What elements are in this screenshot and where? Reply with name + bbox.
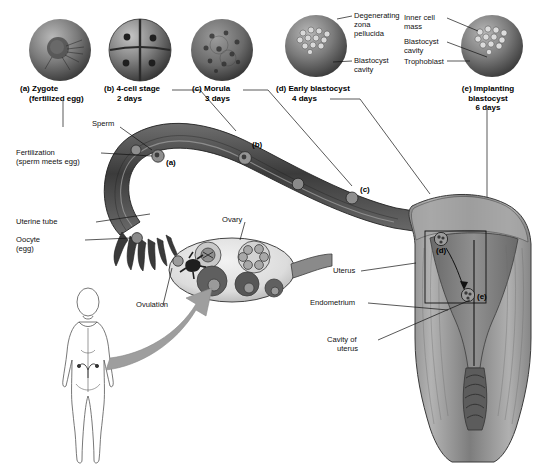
label-cavity-of-uterus: Cavity ofuterus — [327, 335, 358, 353]
label-blastocyst-cavity-d: Blastocystcavity — [354, 56, 389, 74]
oocyte-marker — [132, 233, 143, 244]
panel-d-caption: (d) Early blastocyst4 days — [276, 84, 350, 103]
figure-canvas: (a) Zygote(fertilized egg) (b) 4-cell st… — [0, 0, 548, 468]
panel-a-zygote-image — [29, 19, 91, 81]
panel-c-caption: (c) Morula3 days — [192, 84, 230, 103]
label-fertilization: Fertilization(sperm meets egg) — [16, 148, 80, 166]
panel-c-morula-image — [191, 19, 253, 81]
label-blastocyst-cavity-e: Blastocystcavity — [404, 37, 439, 55]
stage-label-a: (a) — [166, 158, 176, 167]
stage-label-d: (d) — [436, 246, 446, 255]
label-inner-cell-mass: Inner cellmass — [404, 13, 435, 31]
panel-e-blastocyst-image — [461, 15, 523, 77]
label-degenerating-zona-pellucida: Degeneratingzonapellucida — [354, 11, 400, 39]
anatomical-illustration — [0, 0, 548, 468]
panel-b-caption: (b) 4-cell stage2 days — [104, 84, 160, 103]
panel-b-4cell-image — [109, 19, 171, 81]
label-ovary: Ovary — [222, 215, 242, 224]
panel-d-blastocyst-image — [285, 15, 347, 77]
stage-label-c: (c) — [360, 185, 370, 194]
label-uterus: Uterus — [333, 266, 355, 275]
label-endometrium: Endometrium — [310, 298, 355, 307]
ovary-structure — [169, 238, 332, 302]
uterus-structure — [409, 194, 531, 462]
stage-label-e: (e) — [477, 292, 487, 301]
label-trophoblast: Trophoblast — [404, 57, 444, 66]
label-ovulation: Ovulation — [136, 300, 168, 309]
label-sperm: Sperm — [92, 119, 114, 128]
stage-label-b: (b) — [252, 140, 262, 149]
stage-marker-d — [434, 232, 447, 245]
label-oocyte: Oocyte(egg) — [16, 235, 40, 253]
stage-marker-c — [346, 192, 358, 204]
label-uterine-tube: Uterine tube — [16, 217, 57, 226]
panel-a-caption: (a) Zygote(fertilized egg) — [20, 84, 84, 103]
female-body-figure — [63, 288, 114, 463]
stage-marker-e — [461, 288, 474, 301]
panel-e-caption: (e) Implantingblastocyst6 days — [442, 84, 534, 113]
